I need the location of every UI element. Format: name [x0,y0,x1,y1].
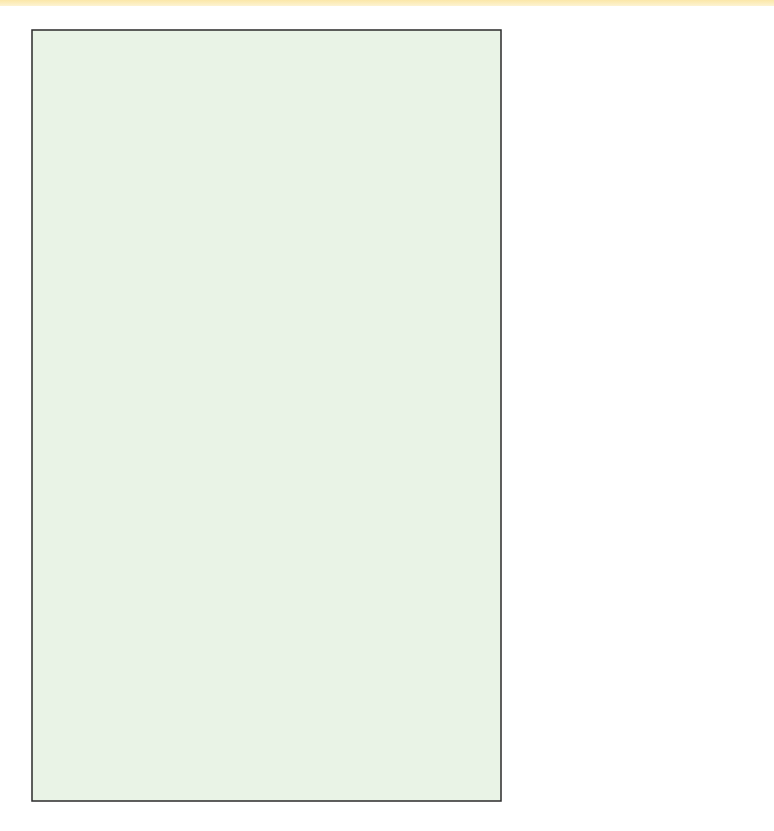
production-schedule [0,0,774,831]
panel-border [32,30,501,801]
